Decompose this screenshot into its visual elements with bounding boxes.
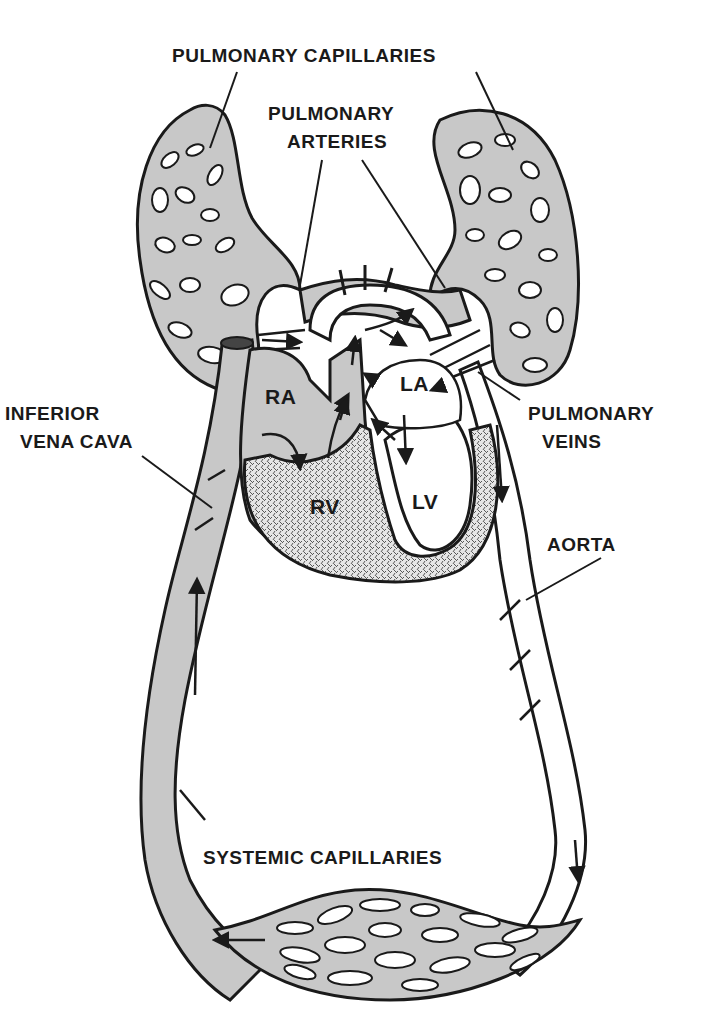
label-systemic-capillaries: SYSTEMIC CAPILLARIES [203, 847, 442, 869]
label-pulmonary-veins-line2: VEINS [542, 431, 602, 453]
label-pulmonary-capillaries: PULMONARY CAPILLARIES [172, 45, 436, 67]
label-right-atrium: RA [265, 385, 296, 409]
label-pulmonary-arteries-line1: PULMONARY [268, 103, 394, 125]
label-aorta: AORTA [547, 534, 616, 556]
label-left-ventricle: LV [412, 490, 438, 514]
systemic-capillary-bed [215, 889, 580, 1000]
left-lung-pulmonary-capillaries [137, 105, 300, 389]
label-pulmonary-veins-line1: PULMONARY [528, 403, 654, 425]
label-right-ventricle: RV [310, 495, 340, 519]
label-left-atrium: LA [400, 372, 429, 396]
label-pulmonary-arteries-line2: ARTERIES [287, 131, 387, 153]
label-inferior-vena-cava-line2: VENA CAVA [20, 431, 133, 453]
label-inferior-vena-cava-line1: INFERIOR [5, 403, 100, 425]
circulation-diagram [0, 0, 713, 1027]
